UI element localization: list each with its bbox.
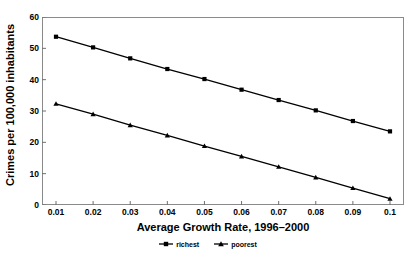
- x-tick-label: 0.1: [384, 208, 396, 217]
- y-tick-label: 0: [19, 201, 39, 210]
- data-point: [351, 119, 355, 123]
- x-tick-label: 0.03: [122, 208, 139, 217]
- x-tick-label: 0.01: [48, 208, 65, 217]
- series-richest: [54, 35, 392, 134]
- legend-item-poorest: poorest: [213, 240, 257, 248]
- x-tick-label: 0.07: [270, 208, 287, 217]
- data-point: [54, 35, 58, 39]
- data-point: [277, 98, 281, 102]
- x-tick-label: 0.06: [233, 208, 250, 217]
- plot-area: [42, 17, 404, 205]
- x-tick-label: 0.02: [85, 208, 102, 217]
- x-tick-label: 0.05: [196, 208, 213, 217]
- legend-marker-triangle-icon: [213, 240, 229, 248]
- x-tick-label: 0.08: [307, 208, 324, 217]
- chart-legend: richestpoorest: [0, 240, 415, 248]
- y-axis-tick-labels: 0102030405060: [19, 0, 39, 257]
- y-axis-title-text: Crimes per 100,000 inhabitants: [4, 24, 16, 186]
- data-point: [314, 108, 318, 112]
- x-tick-label: 0.09: [345, 208, 362, 217]
- series-line: [56, 104, 390, 199]
- data-point: [165, 67, 169, 71]
- y-tick-label: 50: [19, 44, 39, 53]
- y-tick-label: 30: [19, 107, 39, 116]
- legend-label: richest: [176, 241, 199, 248]
- legend-item-richest: richest: [158, 240, 199, 248]
- chart-container: Crimes per 100,000 inhabitants 010203040…: [0, 0, 415, 257]
- data-point: [202, 77, 206, 81]
- y-tick-label: 40: [19, 75, 39, 84]
- data-point: [91, 45, 95, 49]
- x-axis-tick-labels: 0.010.020.030.040.050.060.070.080.090.1: [42, 208, 404, 222]
- legend-marker-square-icon: [158, 240, 174, 248]
- data-point: [388, 129, 392, 133]
- y-axis-title: Crimes per 100,000 inhabitants: [0, 0, 20, 210]
- series-poorest: [53, 101, 392, 201]
- x-tick-label: 0.04: [159, 208, 176, 217]
- y-tick-label: 10: [19, 169, 39, 178]
- data-point: [239, 88, 243, 92]
- data-point: [128, 56, 132, 60]
- data-point: [53, 101, 58, 106]
- series-line: [56, 37, 390, 132]
- x-axis-title: Average Growth Rate, 1996–2000: [42, 221, 404, 233]
- y-tick-label: 20: [19, 138, 39, 147]
- y-tick-label: 60: [19, 13, 39, 22]
- legend-label: poorest: [231, 241, 257, 248]
